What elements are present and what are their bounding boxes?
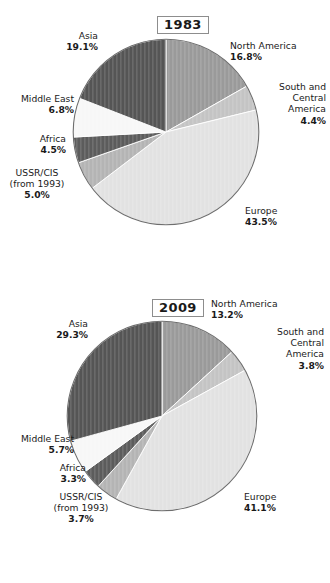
label-europe-name-1983: Europe: [245, 205, 315, 216]
label-asia-1983: Asia 19.1%: [30, 30, 98, 52]
label-europe-value-2009: 41.1%: [244, 502, 320, 513]
label-middle-east-name-2009: Middle East: [2, 433, 74, 444]
label-europe-name-2009: Europe: [244, 491, 320, 502]
label-asia-value-2009: 29.3%: [20, 329, 88, 340]
label-north-america-value-2009: 13.2%: [211, 309, 321, 320]
pie-chart-1983: 1983 Asia 19.1% North America 16.8% Sout…: [0, 0, 330, 290]
pie-chart-2009: 2009 Asia 29.3% North America 13.2% Sout…: [0, 290, 330, 583]
label-north-america-name-2009: North America: [211, 298, 321, 309]
label-north-america-2009: North America 13.2%: [211, 298, 321, 320]
label-africa-1983: Africa 4.5%: [4, 133, 66, 155]
label-ussr-cis-2009: USSR/CIS(from 1993) 3.7%: [42, 491, 120, 525]
label-middle-east-name-1983: Middle East: [4, 93, 74, 104]
label-africa-name-1983: Africa: [4, 133, 66, 144]
label-ussr-cis-value-2009: 3.7%: [42, 513, 120, 524]
label-south-central-america-name-2009: South andCentralAmerica: [252, 326, 324, 360]
label-south-central-america-value-2009: 3.8%: [252, 360, 324, 371]
label-south-central-america-2009: South andCentralAmerica 3.8%: [252, 326, 324, 371]
label-africa-name-2009: Africa: [12, 462, 86, 473]
label-north-america-name-1983: North America: [230, 40, 326, 51]
label-south-central-america-name-1983: South andCentralAmerica: [258, 81, 326, 115]
label-ussr-cis-name-1983: USSR/CIS(from 1993): [2, 167, 72, 189]
label-middle-east-value-2009: 5.7%: [2, 444, 74, 455]
chart-title-2009: 2009: [152, 299, 204, 317]
label-middle-east-1983: Middle East 6.8%: [4, 93, 74, 115]
label-africa-value-2009: 3.3%: [12, 473, 86, 484]
label-europe-2009: Europe 41.1%: [244, 491, 320, 513]
label-europe-value-1983: 43.5%: [245, 216, 315, 227]
label-africa-value-1983: 4.5%: [4, 144, 66, 155]
label-middle-east-2009: Middle East 5.7%: [2, 433, 74, 455]
label-middle-east-value-1983: 6.8%: [4, 104, 74, 115]
label-asia-value-1983: 19.1%: [30, 41, 98, 52]
chart-title-1983: 1983: [157, 16, 209, 34]
pie-graphic-1983: [72, 38, 260, 226]
label-south-central-america-value-1983: 4.4%: [258, 115, 326, 126]
label-ussr-cis-name-2009: USSR/CIS(from 1993): [42, 491, 120, 513]
label-north-america-value-1983: 16.8%: [230, 51, 326, 62]
label-asia-name-2009: Asia: [20, 318, 88, 329]
label-europe-1983: Europe 43.5%: [245, 205, 315, 227]
label-ussr-cis-value-1983: 5.0%: [2, 189, 72, 200]
label-ussr-cis-1983: USSR/CIS(from 1993) 5.0%: [2, 167, 72, 201]
pie-graphic-2009: [66, 320, 258, 512]
label-north-america-1983: North America 16.8%: [230, 40, 326, 62]
label-asia-name-1983: Asia: [30, 30, 98, 41]
label-africa-2009: Africa 3.3%: [12, 462, 86, 484]
label-south-central-america-1983: South andCentralAmerica 4.4%: [258, 81, 326, 126]
label-asia-2009: Asia 29.3%: [20, 318, 88, 340]
